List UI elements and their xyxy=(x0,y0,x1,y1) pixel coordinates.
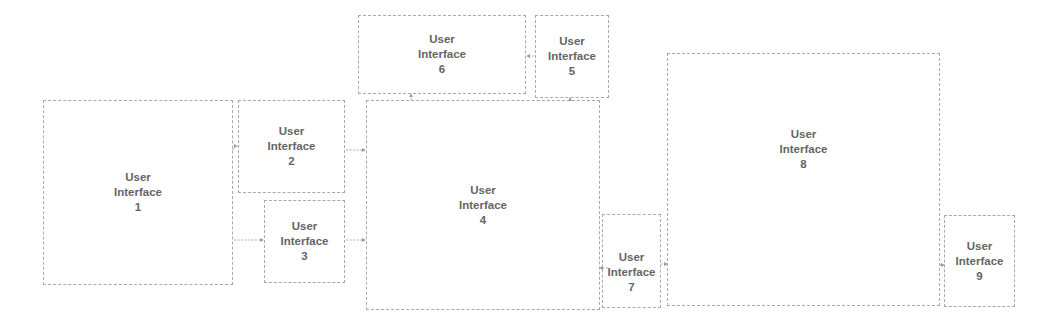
label-number: 2 xyxy=(268,154,316,169)
label-line: User xyxy=(281,219,329,234)
ui-box-3: User Interface 3 xyxy=(264,200,345,283)
label-number: 1 xyxy=(114,200,162,215)
label-number: 9 xyxy=(956,269,1004,284)
ui-box-8: User Interface 8 xyxy=(667,53,940,306)
label-number: 8 xyxy=(780,157,828,172)
label-line: User xyxy=(114,170,162,185)
label-line: Interface xyxy=(418,47,466,62)
ui-box-9-label: User Interface 9 xyxy=(956,239,1004,284)
ui-box-6: User Interface 6 xyxy=(358,15,526,94)
ui-box-8-label: User Interface 8 xyxy=(780,127,828,172)
label-line: User xyxy=(780,127,828,142)
ui-box-5: User Interface 5 xyxy=(535,15,609,98)
label-line: Interface xyxy=(548,49,596,64)
ui-box-2-label: User Interface 2 xyxy=(268,124,316,169)
label-line: Interface xyxy=(268,139,316,154)
ui-box-4-label: User Interface 4 xyxy=(459,183,507,228)
label-line: Interface xyxy=(608,265,656,280)
label-line: Interface xyxy=(780,142,828,157)
ui-box-3-label: User Interface 3 xyxy=(281,219,329,264)
label-number: 3 xyxy=(281,249,329,264)
label-number: 4 xyxy=(459,213,507,228)
label-line: User xyxy=(459,183,507,198)
ui-box-1: User Interface 1 xyxy=(43,100,233,285)
ui-box-2: User Interface 2 xyxy=(238,100,345,193)
ui-box-9: User Interface 9 xyxy=(944,215,1015,307)
label-line: Interface xyxy=(114,185,162,200)
ui-box-4: User Interface 4 xyxy=(366,100,600,310)
label-line: Interface xyxy=(281,234,329,249)
arrow-1-to-2 xyxy=(233,146,237,150)
label-number: 5 xyxy=(548,64,596,79)
label-line: User xyxy=(418,32,466,47)
ui-box-5-label: User Interface 5 xyxy=(548,34,596,79)
label-line: User xyxy=(956,239,1004,254)
label-line: User xyxy=(608,250,656,265)
ui-box-6-label: User Interface 6 xyxy=(418,32,466,77)
label-line: User xyxy=(268,124,316,139)
ui-box-1-label: User Interface 1 xyxy=(114,170,162,215)
label-number: 6 xyxy=(418,62,466,77)
label-line: User xyxy=(548,34,596,49)
ui-box-7-label: User Interface 7 xyxy=(608,250,656,295)
label-line: Interface xyxy=(459,198,507,213)
ui-box-7: User Interface 7 xyxy=(602,214,661,308)
label-line: Interface xyxy=(956,254,1004,269)
label-number: 7 xyxy=(608,280,656,295)
